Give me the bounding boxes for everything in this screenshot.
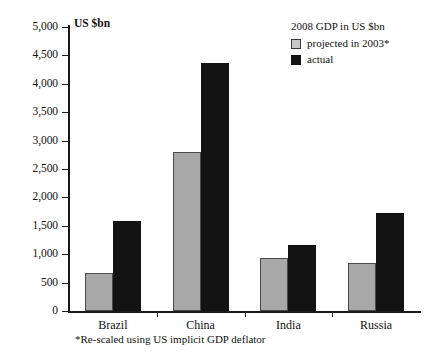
legend-item-projected: projected in 2003* [291, 37, 431, 50]
bar-brazil-actual [113, 221, 141, 311]
y-axis-tick-label: 3,500 [0, 106, 58, 118]
y-axis-tick-label: 2,500 [0, 163, 58, 175]
y-axis-tick-label: 4,000 [0, 78, 58, 90]
legend-swatch-actual-icon [291, 55, 301, 65]
y-axis-tick-mark [62, 27, 68, 28]
y-axis-tick-label: 1,000 [0, 248, 58, 260]
x-axis-tick-mark [245, 311, 246, 317]
legend-item-label: actual [307, 53, 333, 66]
x-axis-tick-mark [157, 311, 158, 317]
chart-footnote: *Re-scaled using US implicit GDP deflato… [75, 333, 266, 346]
legend-title: 2008 GDP in US $bn [291, 19, 431, 33]
y-axis-tick-label: 500 [0, 277, 58, 289]
y-axis-tick-mark [62, 169, 68, 170]
bar-china-actual [201, 63, 229, 311]
y-axis-tick-mark [62, 112, 68, 113]
y-axis-tick-mark [62, 55, 68, 56]
bar-india-actual [288, 245, 316, 311]
y-axis-tick-mark [62, 283, 68, 284]
y-axis-tick-label: 2,000 [0, 191, 58, 203]
y-axis-tick-label: 5,000 [0, 21, 58, 33]
y-axis-tick-label: 1,500 [0, 220, 58, 232]
legend-swatch-projected-icon [291, 39, 301, 49]
bar-russia-projected [348, 263, 376, 311]
gdp-bar-chart: US $bn 05001,0001,5002,0002,5003,0003,50… [0, 0, 436, 359]
x-axis-label-brazil: Brazil [69, 318, 157, 332]
plot-area [69, 27, 420, 311]
x-axis-label-india: India [245, 318, 333, 332]
bar-brazil-projected [85, 273, 113, 311]
y-axis-tick-mark [62, 254, 68, 255]
y-axis-tick-label: 4,500 [0, 49, 58, 61]
y-axis-tick-label: 0 [0, 305, 58, 317]
y-axis-tick-mark [62, 226, 68, 227]
legend-item-actual: actual [291, 53, 431, 66]
bar-russia-actual [376, 213, 404, 311]
bar-india-projected [260, 258, 288, 311]
y-axis-tick-mark [62, 84, 68, 85]
y-axis-tick-mark [62, 311, 68, 312]
y-axis-tick-mark [62, 197, 68, 198]
x-axis-label-china: China [157, 318, 245, 332]
legend-items: projected in 2003*actual [291, 37, 431, 66]
legend: 2008 GDP in US $bn projected in 2003*act… [291, 19, 431, 69]
x-axis-tick-mark [332, 311, 333, 317]
legend-item-label: projected in 2003* [307, 37, 389, 50]
bar-china-projected [173, 152, 201, 311]
y-axis-tick-mark [62, 141, 68, 142]
y-axis-tick-label: 3,000 [0, 135, 58, 147]
x-axis-label-russia: Russia [332, 318, 420, 332]
